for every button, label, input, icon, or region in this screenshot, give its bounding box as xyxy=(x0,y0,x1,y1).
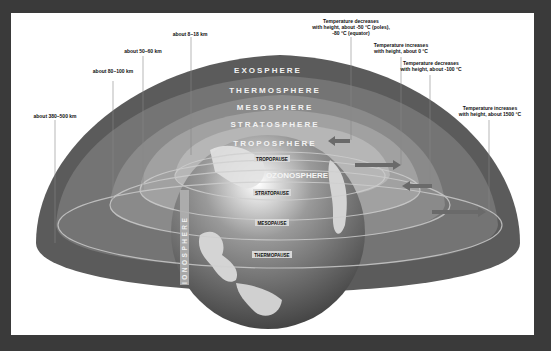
ozonosphere-label: OZONOSPHERE xyxy=(266,171,329,180)
altitude-thermosphere: about 80–100 km xyxy=(93,68,134,74)
svg-text:TROPOPAUSE: TROPOPAUSE xyxy=(256,157,288,162)
svg-text:with height, about 1500 °C: with height, about 1500 °C xyxy=(458,111,522,117)
altitude-mesosphere: about 50–60 km xyxy=(124,48,162,54)
svg-text:with height, about 0 °C: with height, about 0 °C xyxy=(373,48,428,54)
mesopause-tag: MESOPAUSE xyxy=(255,219,289,226)
stratosphere-label: STRATOSPHERE xyxy=(230,120,319,129)
temperature-troposphere: Temperature decreases with height, about… xyxy=(311,18,390,36)
svg-text:THERMOPAUSE: THERMOPAUSE xyxy=(254,253,289,258)
ionosphere-bar: IONOSPHERE xyxy=(180,190,189,285)
diagram-panel: EXOSPHERE THERMOSPHERE MESOSPHERE STRATO… xyxy=(11,13,534,335)
stratopause-tag: STRATOPAUSE xyxy=(253,189,291,196)
troposphere-label: TROPOSPHERE xyxy=(233,139,316,148)
thermosphere-label: THERMOSPHERE xyxy=(229,86,321,95)
svg-text:STRATOPAUSE: STRATOPAUSE xyxy=(255,191,289,196)
mesosphere-label: MESOSPHERE xyxy=(237,103,313,112)
tropopause-tag: TROPOPAUSE xyxy=(254,155,290,162)
temperature-thermosphere: Temperature increases with height, about… xyxy=(458,105,522,117)
svg-text:with height, about -100 °C: with height, about -100 °C xyxy=(399,66,462,72)
atmosphere-diagram: EXOSPHERE THERMOSPHERE MESOSPHERE STRATO… xyxy=(11,13,534,335)
exosphere-label: EXOSPHERE xyxy=(234,66,302,75)
earth-globe xyxy=(171,135,365,329)
temperature-stratosphere: Temperature increases with height, about… xyxy=(373,42,428,54)
svg-text:MESOPAUSE: MESOPAUSE xyxy=(257,221,286,226)
thermopause-tag: THERMOPAUSE xyxy=(252,251,292,258)
svg-text:-80 °C (equator): -80 °C (equator) xyxy=(332,30,370,36)
ionosphere-label: IONOSPHERE xyxy=(181,216,188,284)
altitude-exosphere: about 380–500 km xyxy=(33,113,77,119)
temperature-mesosphere: Temperature decreases with height, about… xyxy=(399,60,462,72)
altitude-troposphere: about 8–18 km xyxy=(173,31,208,37)
